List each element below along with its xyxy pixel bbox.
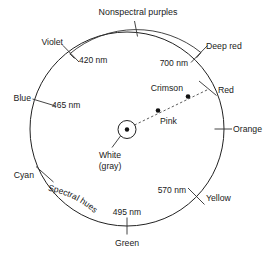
- label-gray: (gray): [99, 161, 122, 171]
- white-center-dot: [125, 127, 129, 131]
- label-cyan: Cyan: [14, 170, 34, 180]
- label-yellow-wavelength: 570 nm: [158, 185, 186, 195]
- point-crimson: [186, 94, 191, 99]
- diagram-canvas: Nonspectral purples Violet 420 nm Deep r…: [0, 0, 277, 253]
- label-violet-wavelength: 420 nm: [79, 55, 107, 65]
- label-white: White: [99, 150, 121, 160]
- label-blue: Blue: [14, 93, 32, 103]
- label-red: Red: [218, 85, 234, 95]
- label-blue-wavelength: 465 nm: [52, 100, 80, 110]
- label-deep-red-wavelength: 700 nm: [160, 58, 188, 68]
- label-pink: Pink: [160, 116, 178, 126]
- label-green-wavelength: 495 nm: [113, 207, 141, 217]
- label-green: Green: [115, 238, 139, 248]
- point-pink: [156, 108, 161, 113]
- white-label-leader: [112, 136, 121, 148]
- nonspectral-purples-arc: [70, 30, 201, 54]
- label-violet: Violet: [41, 37, 63, 47]
- color-circle-diagram: Nonspectral purples Violet 420 nm Deep r…: [0, 0, 277, 253]
- label-crimson: Crimson: [151, 83, 184, 93]
- nonspectral-purples-leader: [135, 21, 138, 37]
- label-yellow: Yellow: [206, 193, 232, 203]
- label-orange: Orange: [233, 124, 262, 134]
- label-deep-red: Deep red: [206, 41, 242, 51]
- tick-red: [199, 81, 217, 96]
- label-nonspectral-purples: Nonspectral purples: [99, 7, 178, 17]
